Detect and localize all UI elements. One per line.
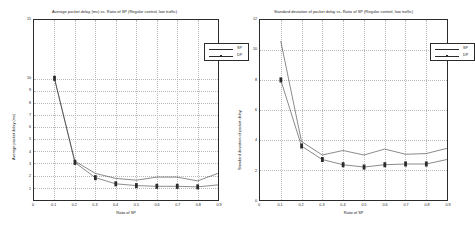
y-tick-left-2: 9 [29,88,31,92]
y-tick-right-0: 12 [253,17,257,21]
x-tick-left-1: 0.1 [51,203,56,207]
x-tick-left-0: 0 [32,203,34,207]
y-tick-right-2: 8 [255,78,257,82]
legend-right: SP DP [430,43,475,61]
y-tick-left-3: 8 [29,101,31,105]
y-tick-left-7: 4 [29,150,31,154]
y-tick-right-5: 2 [255,169,257,173]
plot-area-right: SP DP [259,19,448,201]
x-tick-left-7: 0.7 [175,203,180,207]
series-markers-dp-left [53,76,199,190]
y-tick-right-4: 4 [255,138,257,142]
y-tick-right-6: 0 [255,199,257,203]
chart-average-packet-delay: Average packet delay (ms) vs. Ratio of S… [0,0,229,235]
y-tick-left-9: 2 [29,174,31,178]
y-tick-left-5: 6 [29,125,31,129]
plot-area-left: SP DP [33,19,219,201]
series-lines-right [260,20,447,200]
x-tick-right-9: 0.9 [445,203,450,207]
y-axis-title-right: Standard deviation of packet delay [237,110,242,170]
legend-swatch-sp-right [433,45,461,52]
series-line-dp-left [54,78,218,187]
x-tick-right-4: 0.4 [340,203,345,207]
x-axis-title-right: Ratio of SP [259,210,448,215]
x-tick-left-4: 0.4 [113,203,118,207]
series-line-sp-right [281,41,447,155]
chart-title-left: Average packet delay (ms) vs. Ratio of S… [0,9,229,14]
legend-entry-dp-right: DP [433,52,472,59]
y-tick-left-8: 3 [29,162,31,166]
chart-standard-deviation-packet-delay: Standard deviation of packet delay vs. R… [229,0,458,235]
series-markers-dp-right [279,77,427,169]
y-tick-left-1: 10 [27,76,31,80]
x-tick-right-3: 0.3 [319,203,324,207]
x-tick-right-2: 0.2 [298,203,303,207]
y-tick-right-1: 10 [253,47,257,51]
legend-label-sp-right: SP [461,45,468,52]
x-tick-right-1: 0.1 [277,203,282,207]
y-axis-ticklabels-right: 12 10 8 6 4 2 0 [246,19,257,201]
y-axis-ticklabels-left: 15 10 9 8 7 6 5 4 3 2 1 [20,19,31,201]
y-tick-right-3: 6 [255,108,257,112]
legend-entry-sp-right: SP [433,45,472,52]
y-tick-left-0: 15 [27,17,31,21]
x-tick-left-5: 0.5 [134,203,139,207]
series-lines-left [34,20,218,200]
x-tick-left-2: 0.2 [72,203,77,207]
y-tick-left-10: 1 [29,187,31,191]
x-axis-title-left: Ratio of SP [33,210,219,215]
x-tick-left-6: 0.6 [154,203,159,207]
x-tick-right-5: 0.5 [362,203,367,207]
x-tick-right-7: 0.7 [403,203,408,207]
y-axis-title-left: Average packet delay (ms) [11,114,16,160]
series-line-dp-right [281,80,447,167]
x-tick-left-9: 0.9 [216,203,221,207]
x-tick-right-0: 0 [258,203,260,207]
x-tick-left-3: 0.3 [92,203,97,207]
legend-swatch-dp-right [433,52,461,59]
y-tick-left-6: 5 [29,137,31,141]
x-tick-right-8: 0.8 [424,203,429,207]
x-tick-left-8: 0.8 [196,203,201,207]
y-tick-left-4: 7 [29,113,31,117]
legend-label-dp-right: DP [461,52,468,59]
chart-title-right: Standard deviation of packet delay vs. R… [229,9,458,14]
x-tick-right-6: 0.6 [382,203,387,207]
